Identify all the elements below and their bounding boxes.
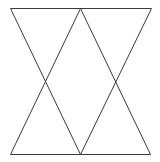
diagram-lines (11, 9, 152, 155)
geometric-diagram (0, 0, 160, 162)
